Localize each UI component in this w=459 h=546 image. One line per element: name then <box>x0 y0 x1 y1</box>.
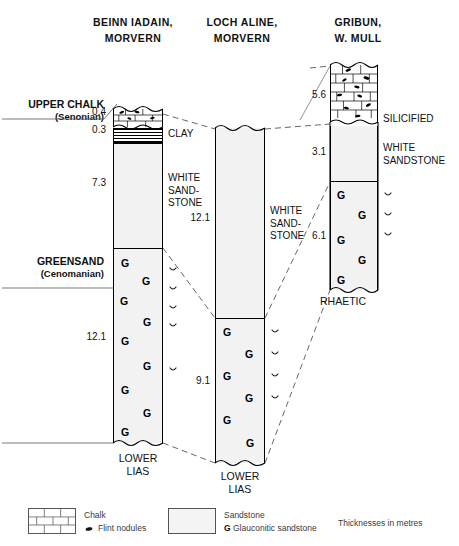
thickness-la-white-sandstone: 12.1 <box>180 212 210 223</box>
heading-line-2: W. MULL <box>308 30 408 46</box>
bed-chalk-gribun <box>330 65 378 122</box>
label-line-2: SANDSTONE <box>383 155 445 168</box>
g-letter-icon: G <box>224 523 231 533</box>
glauconite-marker: G <box>358 255 366 266</box>
legend-thickness-note: Thicknesses in metres <box>338 518 423 529</box>
stage-label-greensand: GREENSAND (Cenomanian) <box>0 255 104 280</box>
label-line-1: WHITE <box>270 205 304 218</box>
glauconite-marker: G <box>121 427 129 438</box>
legend-label-sandstone: Sandstone <box>224 510 265 521</box>
bed-glauconitic-sandstone-loch-aline <box>215 318 265 463</box>
bed-white-sandstone-loch-aline <box>215 128 265 318</box>
legend-label-flint-nodules: Flint nodules <box>98 523 146 534</box>
label-line-3: STONE <box>270 230 304 243</box>
glauconite-marker: G <box>223 415 231 426</box>
thickness-bi-clay: 0.3 <box>78 124 106 135</box>
correlation-line-la-to-gr-silicified <box>265 124 330 129</box>
glauconite-marker: G <box>142 276 150 287</box>
thickness-bi-chalk: 0.4 <box>78 106 106 117</box>
thickness-gr-white-sandstone: 3.1 <box>300 146 326 157</box>
stage-name: GREENSAND <box>0 255 104 268</box>
heading-line-2: MORVERN <box>78 30 188 46</box>
heading-line-2: MORVERN <box>192 30 292 46</box>
heading-line-1: LOCH ALINE, <box>192 14 292 30</box>
basal-label-gribun: RHAETIC <box>320 295 390 308</box>
basal-line-2: LIAS <box>108 465 168 478</box>
correlation-line-base-bi-to-la <box>163 443 215 463</box>
glauconite-marker: G <box>121 385 129 396</box>
bed-white-sandstone-beinn-iadain <box>113 143 163 248</box>
label-line-1: WHITE <box>168 172 202 185</box>
thickness-bi-white-sandstone: 7.3 <box>76 177 106 188</box>
chalk-brick-swatch <box>28 508 76 534</box>
bed-white-sandstone-gribun <box>330 126 378 181</box>
bed-clay-beinn-iadain <box>113 128 163 143</box>
glauconite-marker: G <box>223 371 231 382</box>
legend-label-chalk: Chalk <box>84 510 106 521</box>
label-clay: CLAY <box>168 128 193 141</box>
glauconite-marker: G <box>121 258 129 269</box>
correlation-line-chalk-bi-to-la <box>163 114 215 129</box>
glauconite-marker: G <box>245 349 253 360</box>
glauconite-marker: G <box>358 210 366 221</box>
glauconite-marker: G <box>143 361 151 372</box>
flint-nodule-icon <box>84 524 94 534</box>
legend-glauconitic-text: Glauconitic sandstone <box>233 523 317 533</box>
glauconite-marker: G <box>245 393 253 404</box>
glauconite-marker: G <box>223 327 231 338</box>
thickness-bi-greensand: 12.1 <box>74 331 106 342</box>
label-white-sandstone-gribun: WHITE SANDSTONE <box>383 142 445 167</box>
column-heading-beinn-iadain: BEINN IADAIN, MORVERN <box>78 14 188 46</box>
glauconite-marker: G <box>337 275 345 286</box>
stage-substage: (Cenomanian) <box>0 268 104 281</box>
glauconite-marker: G <box>337 235 345 246</box>
correlation-line-greensand-top-bi-to-la <box>163 248 215 318</box>
stratigraphic-correlation-figure: BEINN IADAIN, MORVERN LOCH ALINE, MORVER… <box>0 0 459 546</box>
column-heading-gribun: GRIBUN, W. MULL <box>308 14 408 46</box>
label-line-2: SAND- <box>168 185 202 198</box>
heading-line-1: GRIBUN, <box>308 14 408 30</box>
basal-label-beinn-iadain: LOWER LIAS <box>108 452 168 478</box>
label-white-sandstone-beinn-iadain: WHITE SAND- STONE <box>168 172 202 210</box>
basal-line-2: LIAS <box>210 483 270 496</box>
glauconite-marker: G <box>143 408 151 419</box>
bed-chalk-beinn-iadain <box>113 109 163 127</box>
correlation-line-gr-top <box>310 66 330 68</box>
legend: Chalk Flint nodules Sandstone G Glauconi… <box>0 498 459 546</box>
column-heading-loch-aline: LOCH ALINE, MORVERN <box>192 14 292 46</box>
glauconite-marker: G <box>120 296 128 307</box>
basal-line-1: LOWER <box>108 452 168 465</box>
glauconite-marker: G <box>246 438 254 449</box>
thickness-gr-chalk: 5.6 <box>300 89 326 100</box>
legend-label-glauconitic-sandstone: G Glauconitic sandstone <box>224 523 317 534</box>
glauconite-marker: G <box>337 190 345 201</box>
label-silicified: SILICIFIED <box>383 113 434 126</box>
thickness-la-greensand: 9.1 <box>180 375 210 386</box>
label-line-3: STONE <box>168 197 202 210</box>
correlation-line-base-la-to-gr <box>265 290 330 463</box>
basal-line-1: LOWER <box>210 470 270 483</box>
glauconite-marker: G <box>121 336 129 347</box>
sandstone-stipple-swatch <box>168 508 216 534</box>
glauconite-marker: G <box>143 317 151 328</box>
heading-line-1: BEINN IADAIN, <box>78 14 188 30</box>
basal-label-loch-aline: LOWER LIAS <box>210 470 270 496</box>
label-line-1: WHITE <box>383 142 445 155</box>
label-line-2: SAND- <box>270 218 304 231</box>
label-white-sandstone-loch-aline: WHITE SAND- STONE <box>270 205 304 243</box>
